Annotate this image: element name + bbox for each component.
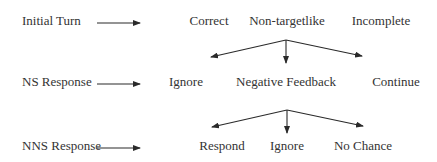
arrow-to-continue [286, 40, 362, 56]
arrows-layer [0, 0, 437, 162]
arrow-to-ignore [211, 40, 286, 57]
arrow-to-no-chance [287, 110, 363, 126]
arrow-to-respond [212, 110, 287, 127]
fan-non-targetlike [211, 40, 362, 63]
fan-negative-feedback [212, 110, 363, 133]
